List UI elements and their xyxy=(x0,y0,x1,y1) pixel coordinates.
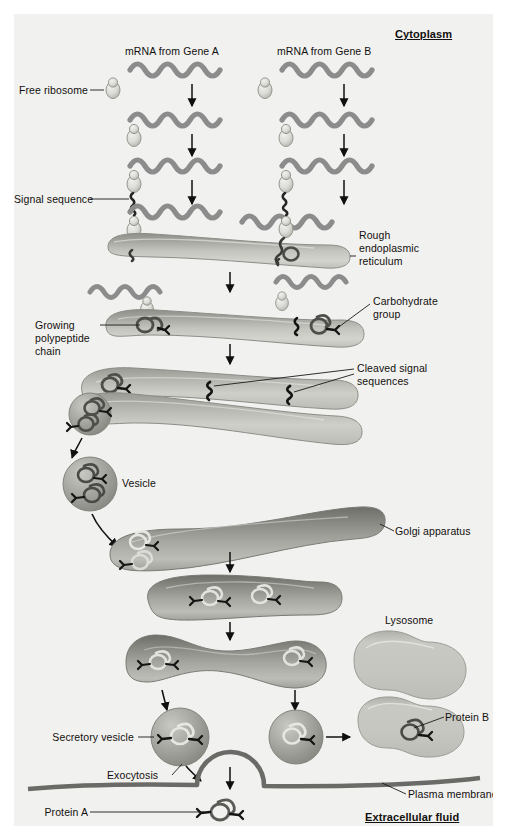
golgi-cisterna-trans xyxy=(126,635,326,688)
curved-arrow-vesicle-to-golgi xyxy=(92,514,118,547)
rough-er-label-line3: reticulum xyxy=(359,255,403,268)
process-arrow xyxy=(162,690,167,710)
secretory-vesicle xyxy=(151,708,209,766)
growing-chain-label-line1: Growing xyxy=(35,319,75,332)
rough-er-label-line2: endoplasmic xyxy=(359,242,419,255)
mrna-gene-a-label: mRNA from Gene A xyxy=(125,45,219,58)
cytoplasm-label: Cytoplasm xyxy=(395,28,452,41)
plasma-membrane-label: Plasma membrane xyxy=(408,788,493,801)
mrna-strand-gene-b-stage1 xyxy=(282,64,372,76)
mrna-ribosome-complex-b-stage2 xyxy=(279,114,372,147)
free-ribosome-b xyxy=(258,78,272,99)
growing-chain-label-line2: polypeptide xyxy=(35,332,90,345)
growing-chain-label-line3: chain xyxy=(35,345,61,358)
free-ribosome-label: Free ribosome xyxy=(14,84,88,97)
curved-arrow-er-to-vesicle xyxy=(72,438,82,458)
diagram-graphics xyxy=(14,14,493,826)
protein-a-label: Protein A xyxy=(14,806,88,819)
free-ribosome-a xyxy=(106,78,120,99)
signal-sequence-label: Signal sequence xyxy=(14,193,88,206)
golgi-cisterna-medial xyxy=(148,575,342,620)
lysosome-with-protein-b xyxy=(358,697,464,757)
cleaved-signal-label-line2: sequences xyxy=(357,375,409,388)
golgi-label: Golgi apparatus xyxy=(395,525,471,538)
mrna-docking-b-stage4 xyxy=(242,216,332,238)
exocytosis-label: Exocytosis xyxy=(107,769,158,782)
vesicle-label: Vesicle xyxy=(122,477,156,490)
lysosome-label: Lysosome xyxy=(385,614,433,627)
mrna-gene-b-label: mRNA from Gene B xyxy=(277,45,371,58)
cleaved-signal-label-line1: Cleaved signal xyxy=(357,362,427,375)
figure-canvas: Cytoplasm mRNA from Gene A mRNA from Gen… xyxy=(0,0,507,838)
lysosome xyxy=(354,631,466,699)
protein-a-released xyxy=(197,800,243,820)
secretory-vesicle-label: Secretory vesicle xyxy=(14,731,134,744)
rough-er-label-line1: Rough xyxy=(359,229,390,242)
lysosome-bound-vesicle xyxy=(269,710,323,764)
carbohydrate-label-line2: group xyxy=(373,308,400,321)
golgi-cisterna-cis xyxy=(110,507,385,571)
mrna-ribosome-complex-a-stage2 xyxy=(127,114,220,147)
protein-b-label: Protein B xyxy=(445,711,489,724)
plasma-membrane xyxy=(28,752,480,789)
mrna-released-b-stage5 xyxy=(276,277,346,311)
mrna-strand-gene-a-stage1 xyxy=(130,64,220,76)
extracellular-fluid-label: Extracellular fluid xyxy=(365,811,459,824)
signal-sequence-chain xyxy=(283,193,288,216)
diagram-panel: Cytoplasm mRNA from Gene A mRNA from Gen… xyxy=(14,14,493,826)
rough-endoplasmic-reticulum-stage4 xyxy=(108,233,350,268)
mrna-ribosome-signal-b-stage3 xyxy=(279,160,372,216)
transport-vesicle xyxy=(63,457,117,511)
carbohydrate-label-line1: Carbohydrate xyxy=(373,295,438,308)
